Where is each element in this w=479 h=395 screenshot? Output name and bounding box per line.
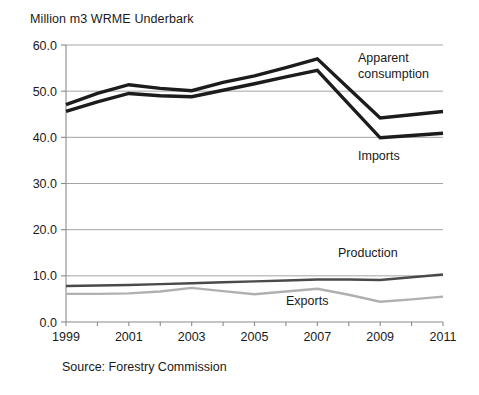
x-tick-label: 2007 (303, 330, 331, 344)
source-note: Source: Forestry Commission (62, 360, 227, 374)
y-tick-label: 10.0 (33, 269, 57, 283)
x-tick-label: 1999 (52, 330, 80, 344)
y-tick-label: 60.0 (33, 39, 57, 53)
series-annotation-label: Exports (286, 294, 328, 308)
x-tick-label: 2003 (178, 330, 206, 344)
y-tick-label: 20.0 (33, 223, 57, 237)
series-line-exports (66, 288, 443, 302)
series-annotation-label: consumption (358, 67, 429, 81)
x-tick-label: 2001 (115, 330, 143, 344)
y-axis-ticks: 0.010.020.030.040.050.060.0 (33, 39, 66, 330)
line-chart-svg: 0.010.020.030.040.050.060.0 199920012003… (0, 0, 479, 395)
series-annotation-label: Apparent (358, 51, 409, 65)
x-axis-ticks: 1999200120032005200720092011 (52, 322, 456, 344)
x-tick-label: 2011 (430, 330, 457, 344)
x-tick-label: 2009 (366, 330, 394, 344)
y-tick-label: 50.0 (33, 85, 57, 99)
y-tick-label: 0.0 (40, 316, 57, 330)
series-annotations-group: ApparentconsumptionImportsProductionExpo… (286, 51, 429, 308)
series-annotation-label: Production (338, 246, 398, 260)
series-annotation-label: Imports (358, 149, 400, 163)
series-lines-group (66, 59, 443, 302)
chart-container: Million m3 WRME Underbark 0.010.020.030.… (0, 0, 479, 395)
y-tick-label: 40.0 (33, 131, 57, 145)
y-tick-label: 30.0 (33, 177, 57, 191)
x-tick-label: 2005 (241, 330, 269, 344)
